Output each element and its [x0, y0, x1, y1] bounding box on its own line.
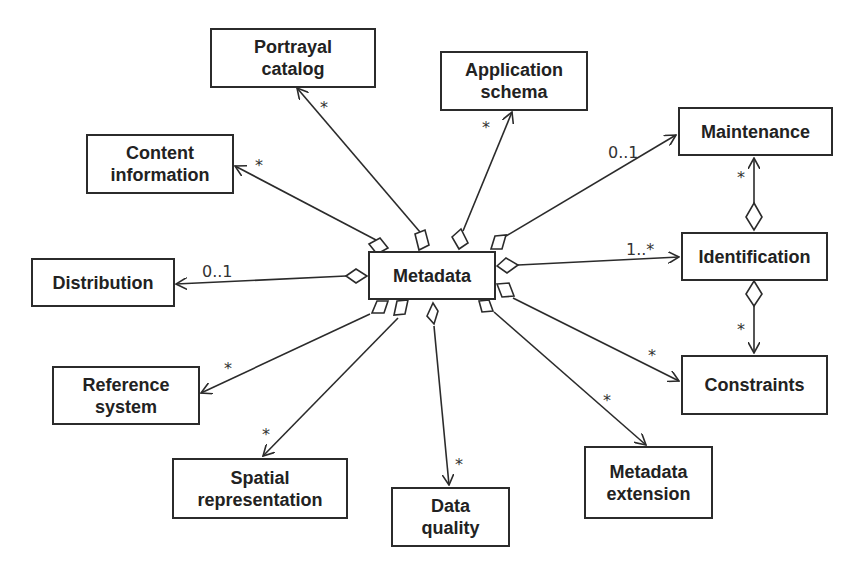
aggregation-diamond-icon: [746, 281, 762, 306]
multiplicity-label: 0..1: [202, 262, 233, 281]
link-content: [235, 166, 376, 240]
aggregation-diamond-icon: [491, 235, 506, 249]
aggregation-diamond-icon: [452, 229, 468, 249]
multiplicity-label: *: [482, 118, 490, 137]
aggregation-diamond-icon: [346, 269, 367, 283]
link-identification: [518, 257, 679, 265]
aggregation-diamond-icon: [497, 258, 518, 273]
link-spatial: [263, 318, 398, 456]
class-spatial-representation[interactable]: Spatial representation: [172, 458, 348, 519]
class-label: Data quality: [421, 495, 479, 539]
multiplicity-label: *: [737, 168, 745, 187]
class-label: Application schema: [465, 59, 563, 103]
class-label: Reference system: [82, 374, 169, 418]
aggregation-diamond-icon: [746, 203, 762, 230]
multiplicity-label: *: [320, 98, 328, 117]
class-distribution[interactable]: Distribution: [31, 258, 175, 307]
multiplicity-label: 0..1: [608, 143, 639, 162]
multiplicity-label: 1..*: [626, 240, 654, 259]
class-label: Metadata extension: [606, 461, 690, 505]
link-dataquality: [434, 326, 449, 485]
class-maintenance[interactable]: Maintenance: [678, 107, 833, 156]
aggregation-diamond-icon: [479, 300, 493, 312]
class-portrayal-catalog[interactable]: Portrayal catalog: [210, 28, 376, 88]
link-constraints: [513, 298, 679, 381]
multiplicity-label: *: [255, 156, 263, 175]
class-metadata-extension[interactable]: Metadata extension: [584, 446, 713, 519]
class-constraints[interactable]: Constraints: [681, 355, 828, 415]
multiplicity-label: *: [737, 320, 745, 339]
class-content-information[interactable]: Content information: [86, 134, 234, 194]
class-label: Metadata: [393, 265, 471, 287]
link-extension: [494, 312, 646, 445]
aggregation-diamond-icon: [497, 283, 514, 297]
link-maintenance: [506, 135, 676, 236]
class-data-quality[interactable]: Data quality: [391, 487, 510, 547]
multiplicity-label: *: [455, 455, 463, 474]
link-portrayal: [297, 88, 420, 232]
class-label: Content information: [111, 142, 210, 186]
class-label: Spatial representation: [197, 467, 322, 511]
class-identification[interactable]: Identification: [681, 232, 828, 281]
aggregation-diamond-icon: [415, 230, 429, 250]
class-application-schema[interactable]: Application schema: [440, 51, 588, 111]
multiplicity-label: *: [224, 359, 232, 378]
class-label: Maintenance: [701, 121, 810, 143]
class-label: Constraints: [704, 374, 804, 396]
class-label: Distribution: [53, 272, 154, 294]
link-reference: [201, 314, 370, 393]
class-label: Identification: [699, 246, 811, 268]
aggregation-diamond-icon: [394, 300, 408, 315]
aggregation-diamond-icon: [427, 303, 438, 324]
class-metadata[interactable]: Metadata: [368, 251, 496, 300]
class-label: Portrayal catalog: [254, 36, 332, 80]
multiplicity-label: *: [262, 425, 270, 444]
multiplicity-label: *: [648, 346, 656, 365]
class-reference-system[interactable]: Reference system: [52, 366, 200, 425]
multiplicity-label: *: [603, 391, 611, 410]
aggregation-diamond-icon: [372, 301, 388, 313]
